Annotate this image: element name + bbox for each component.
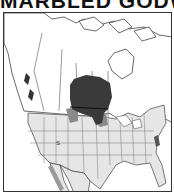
range-map: S — [3, 12, 172, 192]
species-title: MARBLED GODW — [0, 0, 174, 11]
north-america-map: S — [4, 13, 172, 192]
map-label: S — [56, 140, 60, 146]
